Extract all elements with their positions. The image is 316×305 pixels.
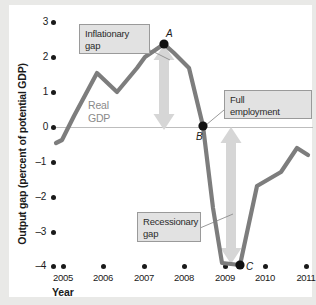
chart-plot-area (0, 0, 316, 305)
full-employment-leader (206, 110, 224, 125)
callout-inflationary-line2: gap (85, 40, 145, 52)
data-point-label-c: C (246, 261, 253, 272)
callout-inflationary-line1: Inflationary (85, 28, 145, 40)
data-point-label-a: A (166, 28, 173, 39)
inflationary-gap-arrow (154, 45, 175, 130)
callout-inflationary-gap: Inflationary gap (79, 24, 150, 54)
callout-recessionary-gap: Recessionary gap (137, 212, 201, 242)
callout-full-line2: employment (230, 106, 307, 118)
recessionary-gap-arrow (221, 127, 242, 264)
data-point-c (235, 260, 244, 269)
figure-container: Output gap (percent of potential GDP) 3 … (0, 0, 316, 305)
callout-recessionary-line1: Recessionary (143, 216, 196, 228)
data-point-label-b: B (196, 131, 203, 142)
callout-recessionary-line2: gap (143, 228, 196, 240)
real-gdp-label-line2: GDP (88, 112, 110, 125)
data-point-b (198, 121, 207, 130)
callout-full-line1: Full (230, 94, 307, 106)
callout-full-employment: Full employment (224, 90, 312, 119)
real-gdp-series-label: Real GDP (88, 99, 110, 125)
data-point-a (159, 39, 168, 48)
real-gdp-label-line1: Real (88, 99, 110, 112)
